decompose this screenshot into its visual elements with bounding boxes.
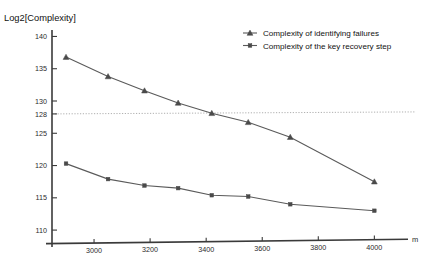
y-tick-label-125: 125 (35, 129, 47, 138)
reference-line-128 (52, 112, 416, 114)
legend-label-1: Complexity of the key recovery step (263, 42, 392, 51)
series-1-point-5 (246, 195, 250, 199)
y-axis-tick-group: 110115120125128130135140 (35, 32, 57, 235)
chart-container: Log2[Complexity] 11011512012512813013514… (0, 0, 426, 273)
x-axis-line (46, 239, 408, 243)
legend-label-0: Complexity of identifying failures (263, 29, 379, 38)
chart-legend: Complexity of identifying failuresComple… (243, 29, 392, 51)
y-tick-label-135: 135 (35, 64, 47, 73)
x-axis-tick-group: 300032003400360038004000 (86, 236, 382, 255)
series-line-0 (66, 57, 374, 182)
y-tick-label-128: 128 (35, 110, 47, 119)
x-tick-label-3800: 3800 (310, 243, 326, 252)
reference-line-group (52, 112, 416, 114)
series-line-1 (66, 164, 374, 211)
series-1-point-1 (106, 177, 110, 181)
y-tick-label-115: 115 (36, 193, 47, 202)
x-tick-label-3400: 3400 (198, 245, 214, 254)
chart-svg: Log2[Complexity] 11011512012512813013514… (0, 0, 426, 273)
series-1-point-0 (64, 162, 68, 166)
x-tick-label-4000: 4000 (366, 243, 382, 252)
series-0-point-0 (63, 54, 69, 59)
x-axis-name: m (412, 235, 418, 244)
x-tick-label-3000: 3000 (86, 246, 102, 255)
x-tick-label-3200: 3200 (142, 245, 158, 254)
series-0-point-7 (371, 179, 377, 184)
series-0-point-1 (105, 74, 111, 79)
x-tick-label-3600: 3600 (254, 244, 270, 253)
y-tick-label-120: 120 (35, 161, 47, 170)
y-axis-title: Log2[Complexity] (4, 13, 76, 23)
y-tick-label-110: 110 (36, 226, 47, 235)
series-1-point-4 (210, 193, 214, 197)
y-tick-label-140: 140 (35, 32, 47, 41)
series-1-point-2 (143, 184, 147, 188)
series-1-point-7 (373, 209, 377, 213)
series-1-point-6 (288, 202, 292, 206)
y-tick-label-130: 130 (35, 97, 47, 106)
series-1-point-3 (176, 186, 180, 190)
legend-marker-square (248, 44, 252, 48)
data-series-group (63, 54, 377, 212)
